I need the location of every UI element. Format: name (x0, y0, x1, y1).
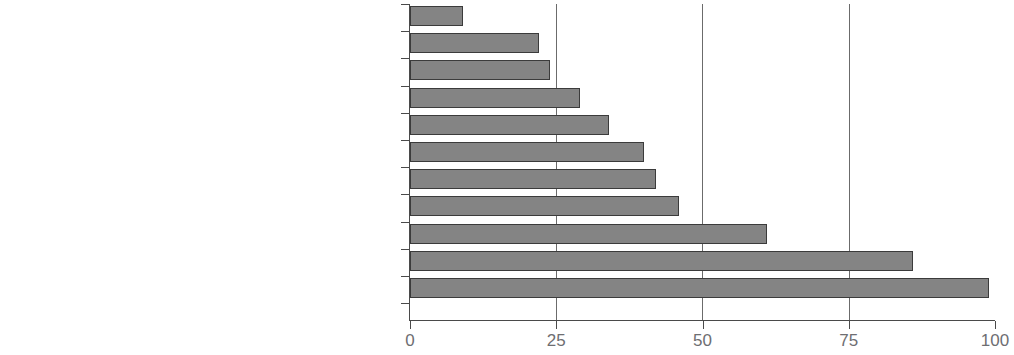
x-axis-tick (410, 321, 411, 329)
x-axis-tick (703, 321, 704, 329)
horizontal-bar-chart: CaribbeanWest AsiaOceaniaMiddle EastAfri… (0, 0, 1014, 355)
x-axis-tick (849, 321, 850, 329)
x-axis-tick-label: 50 (693, 331, 712, 351)
x-axis-tick-label: 100 (981, 331, 1009, 351)
x-axis-tick (995, 321, 996, 329)
x-axis-tick-label: 0 (405, 331, 414, 351)
x-axis-ticks: 0255075100 (0, 0, 1014, 355)
x-axis-tick (556, 321, 557, 329)
x-axis-tick-label: 25 (547, 331, 566, 351)
x-axis-tick-label: 75 (839, 331, 858, 351)
